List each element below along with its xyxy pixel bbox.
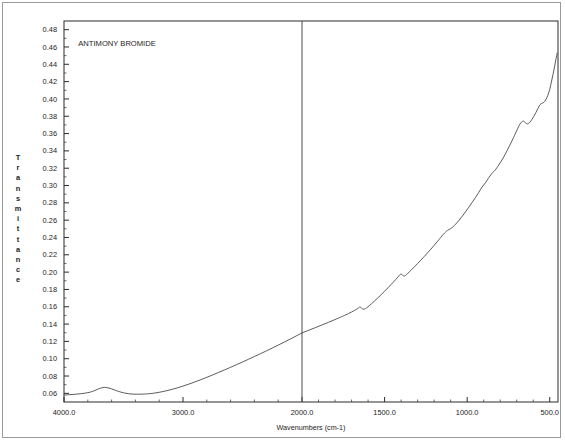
y-axis-title-letter: t xyxy=(17,235,20,244)
y-tick-label: 0.44 xyxy=(43,60,57,69)
y-tick-label: 0.30 xyxy=(43,181,57,190)
y-tick-label: 0.16 xyxy=(43,302,57,311)
y-tick-label: 0.24 xyxy=(43,233,57,242)
chart-title: ANTIMONY BROMIDE xyxy=(78,39,156,48)
y-axis-title-letter: i xyxy=(17,214,19,223)
y-tick-label: 0.40 xyxy=(43,95,57,104)
y-tick-label: 0.08 xyxy=(43,372,57,381)
y-axis-title-letter: T xyxy=(16,153,21,162)
x-tick-label: 1500.0 xyxy=(373,408,396,417)
y-tick-label: 0.18 xyxy=(43,285,57,294)
x-tick-label: 3000.0 xyxy=(172,408,195,417)
y-tick-label: 0.26 xyxy=(43,216,57,225)
x-tick-label: 500.0 xyxy=(540,408,559,417)
x-axis-title: Wavenumbers (cm-1) xyxy=(277,423,346,432)
y-tick-label: 0.22 xyxy=(43,250,57,259)
y-axis-title: Transmittance xyxy=(15,153,22,284)
y-tick-label: 0.14 xyxy=(43,320,57,329)
y-tick-label: 0.36 xyxy=(43,129,57,138)
y-tick-label: 0.38 xyxy=(43,112,57,121)
spectrum-svg: ANTIMONY BROMIDE 4000.03000.02000.01500.… xyxy=(0,0,565,443)
y-axis-title-letter: a xyxy=(16,245,21,254)
y-tick-label: 0.10 xyxy=(43,354,57,363)
y-axis-title-letter: n xyxy=(16,255,21,264)
y-axis-title-letter: t xyxy=(17,224,20,233)
x-tick-label: 4000.0 xyxy=(53,408,76,417)
x-tick-labels: 4000.03000.02000.01500.01000.0500.0 xyxy=(53,408,559,417)
y-tick-label: 0.48 xyxy=(43,25,57,34)
y-axis-title-letter: a xyxy=(16,173,21,182)
y-axis-title-letter: m xyxy=(15,204,22,213)
y-axis-title-letter: c xyxy=(16,265,20,274)
plot-frame xyxy=(64,21,558,402)
x-tick-label: 1000.0 xyxy=(456,408,479,417)
y-tick-label: 0.12 xyxy=(43,337,57,346)
y-tick-labels: 0.060.080.100.120.140.160.180.200.220.24… xyxy=(43,25,57,398)
y-axis-title-letter: s xyxy=(16,194,20,203)
y-axis-title-letter: r xyxy=(17,163,20,172)
y-tick-label: 0.28 xyxy=(43,198,57,207)
x-tick-label: 2000.0 xyxy=(291,408,314,417)
y-tick-label: 0.20 xyxy=(43,268,57,277)
y-axis-title-letter: e xyxy=(16,275,20,284)
y-tick-label: 0.42 xyxy=(43,77,57,86)
plot-area: ANTIMONY BROMIDE xyxy=(64,21,558,402)
y-tick-label: 0.34 xyxy=(43,146,57,155)
y-tick-label: 0.32 xyxy=(43,164,57,173)
ir-spectrum-chart: ANTIMONY BROMIDE 4000.03000.02000.01500.… xyxy=(0,0,565,443)
y-tick-label: 0.06 xyxy=(43,389,57,398)
y-tick-label: 0.46 xyxy=(43,43,57,52)
y-axis-title-letter: n xyxy=(16,184,21,193)
